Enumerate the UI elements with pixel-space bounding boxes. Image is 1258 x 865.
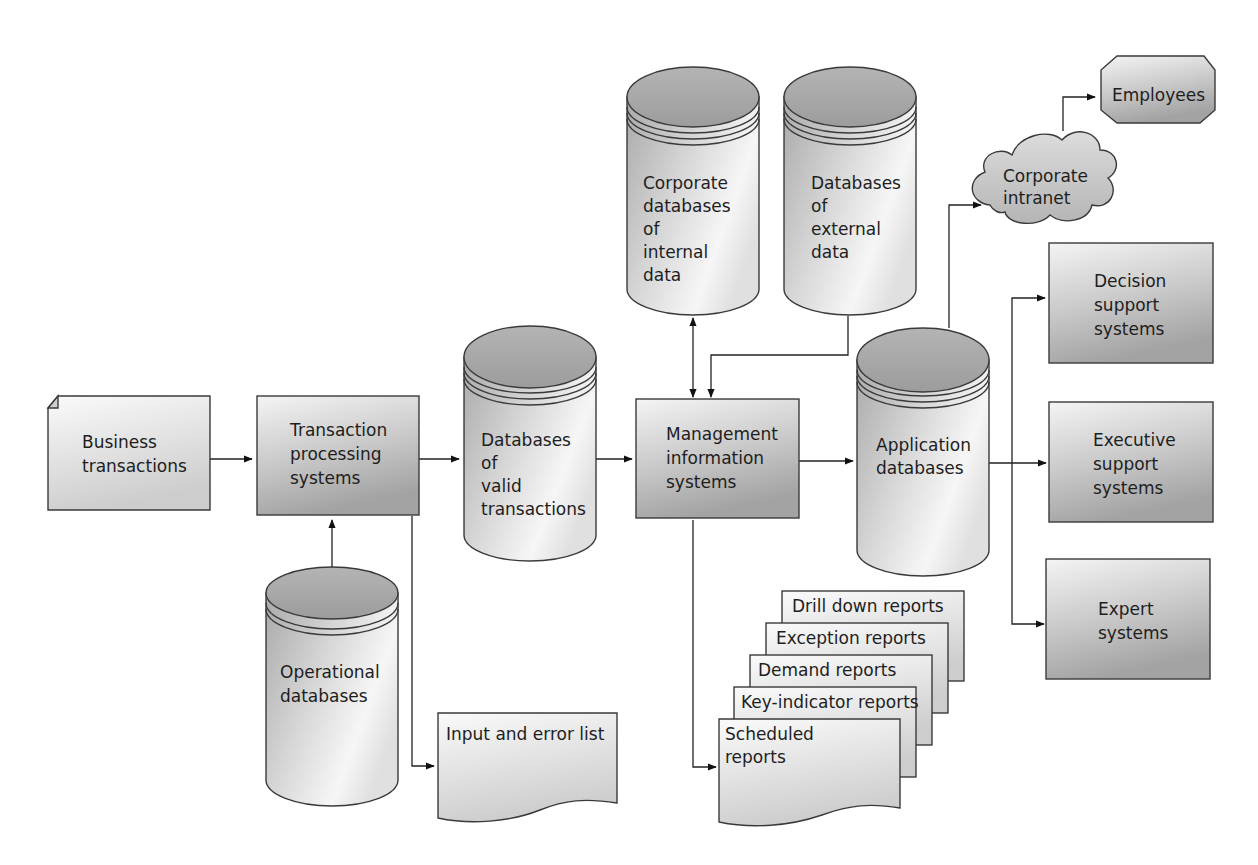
edge-tps-to-input-error-list <box>412 516 434 766</box>
label-line: databases <box>280 686 368 706</box>
svg-text:Exception reports: Exception reports <box>776 628 926 648</box>
label-line: systems <box>666 472 736 492</box>
svg-text:internal: internal <box>643 242 708 262</box>
label-line: of <box>811 196 828 216</box>
edge-app-db-to-intranet <box>949 205 981 328</box>
label-line: Key-indicator reports <box>741 692 919 712</box>
svg-text:processing: processing <box>290 444 382 464</box>
label-line: Application <box>876 435 971 455</box>
svg-text:systems: systems <box>1094 319 1164 339</box>
node-transaction-processing-systems: Transaction processing systems <box>257 396 419 515</box>
svg-text:systems: systems <box>290 468 360 488</box>
label-line: Business <box>82 432 157 452</box>
label-line: valid <box>481 476 522 496</box>
svg-text:transactions: transactions <box>82 456 187 476</box>
svg-text:support: support <box>1093 454 1159 474</box>
label-line: Corporate <box>643 173 728 193</box>
label-line: intranet <box>1003 188 1071 208</box>
svg-text:systems: systems <box>1093 478 1163 498</box>
svg-text:systems: systems <box>666 472 736 492</box>
node-business-transactions: Business transactions <box>48 396 210 510</box>
label-line: support <box>1093 454 1159 474</box>
diagram-canvas: Business transactions Transaction proces… <box>0 0 1258 865</box>
edge-mis-to-reports <box>693 520 716 767</box>
node-databases-of-external-data: Databases of external data <box>784 67 916 315</box>
svg-text:Management: Management <box>666 424 778 444</box>
node-corporate-intranet: Corporate intranet <box>972 132 1116 224</box>
edge-external-db-to-mis <box>711 316 848 397</box>
svg-text:support: support <box>1094 295 1160 315</box>
svg-text:Decision: Decision <box>1094 271 1166 291</box>
node-reports-stack: Drill down reports Exception reports Dem… <box>719 591 964 826</box>
svg-text:databases: databases <box>643 196 731 216</box>
svg-text:of: of <box>481 453 498 473</box>
label-line: Corporate <box>1003 166 1088 186</box>
svg-text:Drill down reports: Drill down reports <box>792 596 944 616</box>
node-decision-support-systems: Decision support systems <box>1049 243 1213 363</box>
svg-text:of: of <box>811 196 828 216</box>
svg-text:Executive: Executive <box>1093 430 1176 450</box>
svg-text:intranet: intranet <box>1003 188 1071 208</box>
label-line: internal <box>643 242 708 262</box>
node-application-databases: Application databases <box>857 328 989 576</box>
svg-text:Databases: Databases <box>811 173 901 193</box>
svg-text:information: information <box>666 448 764 468</box>
svg-text:Demand reports: Demand reports <box>758 660 896 680</box>
label-line: reports <box>725 747 786 767</box>
label-line: databases <box>876 458 964 478</box>
svg-text:Corporate: Corporate <box>1003 166 1088 186</box>
label-line: of <box>643 219 660 239</box>
label-line: Exception reports <box>776 628 926 648</box>
node-management-information-systems: Management information systems <box>636 399 799 518</box>
edge-app-db-to-es <box>1012 463 1044 624</box>
label-line: support <box>1094 295 1160 315</box>
label-line: transactions <box>82 456 187 476</box>
svg-text:Employees: Employees <box>1112 85 1205 105</box>
svg-text:valid: valid <box>481 476 522 496</box>
label-line: Expert <box>1098 599 1154 619</box>
svg-text:of: of <box>643 219 660 239</box>
node-databases-of-valid-transactions: Databases of valid transactions <box>464 326 596 561</box>
node-corporate-databases-internal-data: Corporate databases of internal data <box>627 67 759 315</box>
svg-text:databases: databases <box>280 686 368 706</box>
edge-app-db-to-dss <box>1012 298 1045 463</box>
svg-text:Transaction: Transaction <box>289 420 387 440</box>
report-scheduled: Scheduled reports <box>719 719 900 826</box>
svg-text:Expert: Expert <box>1098 599 1154 619</box>
label-line: Employees <box>1112 85 1205 105</box>
node-operational-databases: Operational databases <box>266 567 398 806</box>
label-line: external <box>811 219 881 239</box>
svg-text:databases: databases <box>876 458 964 478</box>
label-line: data <box>811 242 849 262</box>
label-line: Databases <box>811 173 901 193</box>
label-line: information <box>666 448 764 468</box>
label-line: Operational <box>280 662 380 682</box>
label-line: Management <box>666 424 778 444</box>
label-line: Scheduled <box>725 724 814 744</box>
label-line: systems <box>1093 478 1163 498</box>
svg-text:Key-indicator reports: Key-indicator reports <box>741 692 919 712</box>
svg-text:data: data <box>811 242 849 262</box>
svg-text:Business: Business <box>82 432 157 452</box>
svg-text:Operational: Operational <box>280 662 380 682</box>
svg-text:Scheduled: Scheduled <box>725 724 814 744</box>
label-line: Executive <box>1093 430 1176 450</box>
label-line: Databases <box>481 430 571 450</box>
label-line: systems <box>1098 623 1168 643</box>
label-line: transactions <box>481 499 586 519</box>
node-input-and-error-list: Input and error list <box>438 713 617 822</box>
node-executive-support-systems: Executive support systems <box>1049 402 1213 522</box>
svg-text:transactions: transactions <box>481 499 586 519</box>
label-line: processing <box>290 444 382 464</box>
label-line: Decision <box>1094 271 1166 291</box>
svg-text:Corporate: Corporate <box>643 173 728 193</box>
svg-text:data: data <box>643 265 681 285</box>
node-expert-systems: Expert systems <box>1046 559 1210 679</box>
svg-text:external: external <box>811 219 881 239</box>
label-line: systems <box>290 468 360 488</box>
label-line: Transaction <box>289 420 387 440</box>
label-line: of <box>481 453 498 473</box>
svg-text:reports: reports <box>725 747 786 767</box>
label-line: data <box>643 265 681 285</box>
label-line: systems <box>1094 319 1164 339</box>
